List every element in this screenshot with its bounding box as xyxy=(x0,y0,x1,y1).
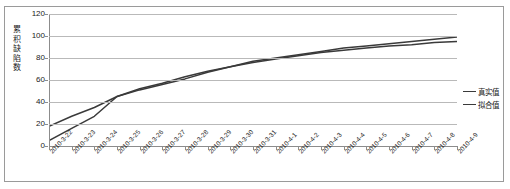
y-axis-tick-label: 120 xyxy=(23,9,45,18)
legend-line-swatch-fitted xyxy=(463,104,476,105)
y-axis-tick-label: 20 xyxy=(23,119,45,128)
gridline xyxy=(49,80,457,81)
chart-figure: 累 积 缺 陷 数 020406080100120 2010-3-222010-… xyxy=(4,6,504,182)
chart-legend: 真实值 拟合值 xyxy=(463,85,507,111)
gridline xyxy=(49,36,457,37)
gridline xyxy=(49,14,457,15)
y-axis-tick-mark xyxy=(45,80,48,81)
y-axis-tick-label: 80 xyxy=(23,53,45,62)
y-axis-tick-label: 100 xyxy=(23,31,45,40)
y-axis-tick-label: 60 xyxy=(23,75,45,84)
y-axis-tick-mark xyxy=(45,36,48,37)
gridline xyxy=(49,102,457,103)
y-axis-tick-mark xyxy=(45,14,48,15)
legend-label-fitted: 拟合值 xyxy=(478,99,499,110)
y-axis-tick-label: 40 xyxy=(23,97,45,106)
y-axis-tick-mark xyxy=(45,124,48,125)
gridline xyxy=(49,124,457,125)
legend-label-actual: 真实值 xyxy=(478,86,499,97)
gridline xyxy=(49,58,457,59)
plot-area xyxy=(49,14,457,146)
y-axis-tick-mark xyxy=(45,102,48,103)
y-axis-tick-mark xyxy=(45,58,48,59)
y-axis-tick-labels: 020406080100120 xyxy=(21,14,45,146)
legend-line-swatch-actual xyxy=(463,91,476,92)
y-axis-tick-mark xyxy=(45,146,48,147)
x-axis-tick-labels: 2010-3-222010-3-232010-3-242010-3-252010… xyxy=(49,150,457,184)
x-axis-tick-label: 2010-4-9 xyxy=(456,131,479,155)
legend-item-fitted: 拟合值 xyxy=(463,98,507,111)
legend-item-actual: 真实值 xyxy=(463,85,507,98)
y-axis-tick-label: 0 xyxy=(23,141,45,150)
